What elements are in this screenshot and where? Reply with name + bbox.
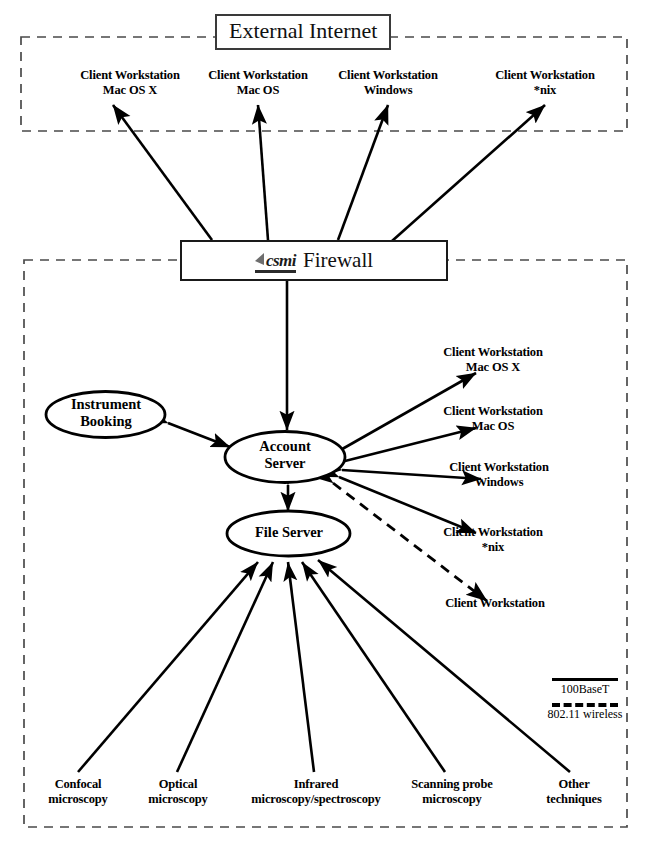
label-line-2: microscopy/spectroscopy [228, 792, 404, 807]
label-line-2: Mac OS [408, 419, 578, 434]
instrument-other-techniques: Other techniques [519, 777, 629, 806]
label-line-1: Other [519, 777, 629, 792]
instrument-infrared-microscopy-spectroscopy: Infrared microscopy/spectroscopy [228, 777, 404, 806]
internal-client-mac-os-x: Client Workstation Mac OS X [408, 345, 578, 374]
label-line-1: Scanning probe [389, 777, 515, 792]
label-line-2: microscopy [118, 792, 238, 807]
label-line-1: Client Workstation [410, 596, 580, 611]
label-line-1: Account [225, 438, 345, 455]
label-line-1: Client Workstation [408, 525, 578, 540]
link-firewall-ext-nix [392, 105, 545, 241]
link-account-client-macos [341, 428, 476, 462]
instrument-optical-microscopy: Optical microscopy [118, 777, 238, 806]
legend: 100BaseT 802.11 wireless [535, 678, 635, 722]
internal-client-nix: Client Workstation *nix [408, 525, 578, 554]
link-firewall-ext-macos [258, 105, 268, 240]
legend-label-100baset: 100BaseT [561, 682, 610, 697]
account-server-label: Account Server [225, 438, 345, 472]
label-line-1: Client Workstation [308, 68, 468, 83]
label-line-1: Client Workstation [465, 68, 625, 83]
link-optical-file-server [177, 562, 273, 772]
link-booking-account-server [168, 423, 230, 447]
csmi-logo-text: csmi [266, 252, 296, 270]
file-server-label: File Server [228, 524, 350, 541]
firewall-label: Firewall [303, 249, 373, 271]
legend-solid-line-icon [552, 678, 618, 681]
label-line-2: Windows [308, 83, 468, 98]
legend-item-wireless: 802.11 wireless [535, 703, 635, 722]
label-line-1: Infrared [228, 777, 404, 792]
link-infrared-file-server [288, 562, 314, 772]
csmi-flag-icon [255, 253, 264, 265]
label-line-2: microscopy [389, 792, 515, 807]
label-line-1: Client Workstation [414, 460, 584, 475]
instrument-booking-label: Instrument Booking [46, 396, 166, 430]
label-line-2: techniques [519, 792, 629, 807]
label-line-2: *nix [465, 83, 625, 98]
label-line-2: Mac OS X [408, 360, 578, 375]
external-client-nix: Client Workstation *nix [465, 68, 625, 97]
external-client-windows: Client Workstation Windows [308, 68, 468, 97]
internal-client-mac-os: Client Workstation Mac OS [408, 404, 578, 433]
link-scanning-probe-file-server [302, 562, 445, 772]
label-line-2: Server [225, 455, 345, 472]
internal-client-wireless: Client Workstation [410, 596, 580, 611]
label-line-2: Booking [46, 413, 166, 430]
link-firewall-ext-macosx [113, 105, 212, 240]
instrument-scanning-probe-microscopy: Scanning probe microscopy [389, 777, 515, 806]
link-other-file-server [318, 560, 570, 772]
legend-item-100baset: 100BaseT [535, 678, 635, 697]
label-line-1: Client Workstation [408, 345, 578, 360]
label-line-1: Instrument [46, 396, 166, 413]
csmi-logo-icon: csmi [255, 252, 296, 273]
label-line-1: File Server [228, 524, 350, 541]
network-diagram: External Internet Client Workstation Mac… [0, 0, 646, 849]
firewall-node: csmi Firewall [180, 240, 448, 281]
label-line-1: Client Workstation [408, 404, 578, 419]
label-line-1: Optical [118, 777, 238, 792]
link-confocal-file-server [78, 562, 258, 772]
label-line-2: Windows [414, 475, 584, 490]
link-firewall-ext-windows [338, 105, 388, 240]
internal-client-windows: Client Workstation Windows [414, 460, 584, 489]
legend-label-wireless: 802.11 wireless [548, 707, 623, 722]
label-line-2: *nix [408, 540, 578, 555]
zone-title-external-internet: External Internet [215, 14, 391, 50]
